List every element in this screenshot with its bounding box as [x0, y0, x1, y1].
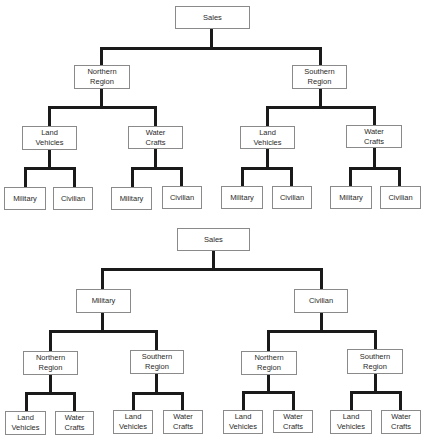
node-land-vehicles: Land Vehicles [330, 410, 372, 434]
connector [49, 330, 52, 351]
node-military: Military [111, 187, 152, 210]
node-northern-region: Northern Region [74, 65, 130, 89]
connector [242, 391, 245, 410]
connector [100, 47, 322, 50]
node-military: Military [4, 187, 46, 210]
connector [350, 391, 402, 394]
connector [48, 106, 51, 126]
connector [399, 391, 402, 410]
connector [101, 268, 104, 289]
connector [210, 29, 213, 49]
connector [349, 167, 401, 170]
connector [25, 392, 28, 411]
connector [100, 47, 103, 65]
connector [73, 167, 76, 187]
node-water-crafts: Water Crafts [163, 410, 203, 434]
node-northern-region: Northern Region [23, 351, 78, 375]
connector [350, 391, 353, 410]
connector [241, 167, 293, 170]
node-southern-region: Southern Region [347, 349, 403, 374]
node-land-vehicles: Land Vehicles [22, 126, 77, 150]
connector [155, 374, 158, 394]
node-civilian: Civilian [162, 186, 202, 209]
node-water-crafts: Water Crafts [128, 126, 183, 149]
node-southern-region: Southern Region [292, 65, 347, 89]
node-land-vehicles: Land Vehicles [223, 410, 263, 434]
node-civilian: Civilian [380, 186, 421, 209]
connector [131, 167, 183, 170]
connector [292, 391, 295, 410]
connector [73, 392, 76, 411]
connector [319, 47, 322, 65]
connector [398, 167, 401, 186]
connector [101, 268, 323, 271]
connector [374, 330, 377, 349]
connector [180, 167, 183, 187]
node-military: Military [221, 186, 263, 209]
connector [349, 167, 352, 186]
node-water-crafts: Water Crafts [346, 125, 402, 148]
connector [24, 167, 27, 187]
org-chart-diagrams: Sales Northern Region Southern Region La… [0, 0, 428, 441]
node-water-crafts: Water Crafts [273, 410, 313, 433]
connector [132, 392, 135, 410]
node-land-vehicles: Land Vehicles [113, 410, 153, 434]
connector [154, 106, 157, 126]
node-land-vehicles: Land Vehicles [240, 126, 295, 149]
connector [24, 167, 76, 170]
connector [266, 149, 269, 169]
node-military: Military [76, 289, 131, 313]
connector [320, 268, 323, 289]
node-civilian: Civilian [53, 187, 93, 210]
node-southern-region: Southern Region [130, 350, 184, 374]
connector [132, 392, 184, 395]
connector [181, 392, 184, 410]
connector [49, 330, 158, 333]
connector [267, 330, 377, 333]
connector [154, 149, 157, 169]
connector [155, 330, 158, 350]
connector [373, 148, 376, 169]
node-water-crafts: Water Crafts [381, 410, 421, 434]
connector [290, 167, 293, 186]
connector [131, 167, 134, 187]
node-northern-region: Northern Region [241, 351, 297, 375]
node-water-crafts: Water Crafts [55, 411, 94, 435]
connector [25, 392, 76, 395]
connector [266, 106, 375, 109]
connector [242, 391, 295, 394]
node-land-vehicles: Land Vehicles [5, 411, 46, 435]
node-military: Military [330, 186, 372, 209]
node-sales-root: Sales [175, 6, 250, 29]
node-civilian: Civilian [294, 289, 348, 313]
connector [48, 106, 156, 109]
node-civilian: Civilian [272, 186, 312, 209]
connector [267, 330, 270, 351]
connector [241, 167, 244, 186]
connector [266, 106, 269, 126]
connector [373, 106, 376, 125]
node-sales-root: Sales [177, 228, 250, 251]
